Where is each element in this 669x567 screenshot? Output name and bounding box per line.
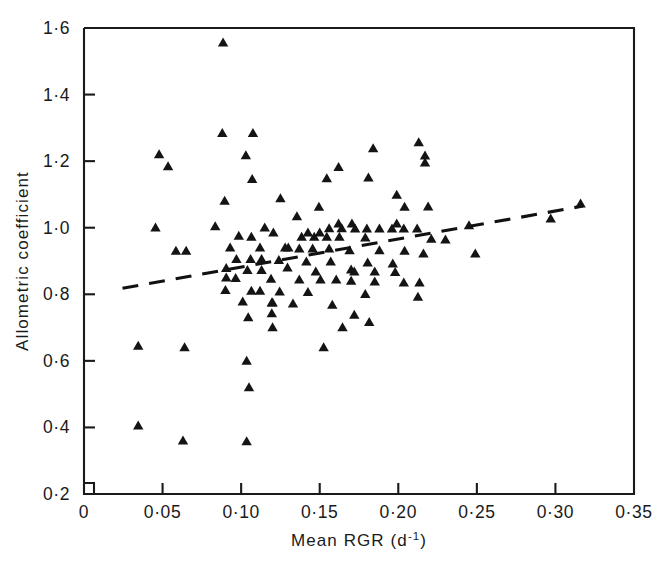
data-point xyxy=(399,202,409,211)
data-point xyxy=(255,242,265,251)
data-point xyxy=(360,289,370,298)
regression-line xyxy=(123,206,583,288)
x-tick-label: 0·10 xyxy=(222,502,259,522)
data-point xyxy=(315,274,325,283)
data-point xyxy=(318,342,328,351)
data-point xyxy=(241,436,251,445)
data-point xyxy=(255,286,265,295)
data-point xyxy=(181,246,191,255)
data-point xyxy=(171,246,181,255)
data-point xyxy=(546,214,556,223)
data-point xyxy=(150,222,160,231)
x-tick-label: 0·05 xyxy=(144,502,181,522)
origin-nub xyxy=(84,483,94,494)
x-tick-label: 0·15 xyxy=(301,502,338,522)
y-tick-label: 1·2 xyxy=(43,151,70,171)
data-point xyxy=(392,190,402,199)
data-point xyxy=(248,128,258,137)
data-point xyxy=(238,296,248,305)
data-point xyxy=(275,193,285,202)
data-point xyxy=(268,227,278,236)
data-point xyxy=(267,308,277,317)
y-tick-label: 1·6 xyxy=(43,18,70,38)
y-tick-label: 1·4 xyxy=(43,85,70,105)
data-point xyxy=(178,436,188,445)
data-point xyxy=(390,267,400,276)
data-point xyxy=(307,243,317,252)
data-point xyxy=(322,173,332,182)
y-tick-label: 1·0 xyxy=(43,218,70,238)
scatter-plot-figure: 00·050·100·150·200·250·300·35 0·20·40·60… xyxy=(0,0,669,567)
data-point xyxy=(225,242,235,251)
data-point xyxy=(267,297,277,306)
data-point xyxy=(267,322,277,331)
data-point xyxy=(256,265,266,274)
data-point xyxy=(440,234,450,243)
data-point xyxy=(337,322,347,331)
data-point xyxy=(244,382,254,391)
data-point xyxy=(294,274,304,283)
x-axis-title: Mean RGR (d-1) xyxy=(291,530,427,550)
y-axis-title: Allometric coefficient xyxy=(13,171,32,351)
data-point xyxy=(324,223,334,232)
data-point xyxy=(303,227,313,236)
data-point xyxy=(412,223,422,232)
data-point xyxy=(241,356,251,365)
data-point xyxy=(374,245,384,254)
data-point xyxy=(241,150,251,159)
data-point xyxy=(362,257,372,266)
x-tick-label: 0·25 xyxy=(458,502,495,522)
data-point xyxy=(246,286,256,295)
data-point xyxy=(399,277,409,286)
y-tick-label: 0·8 xyxy=(43,284,70,304)
data-point xyxy=(210,221,220,230)
data-point xyxy=(331,274,341,283)
data-point xyxy=(303,287,313,296)
data-point xyxy=(423,202,433,211)
data-point xyxy=(326,256,336,265)
x-tick-label: 0 xyxy=(79,502,89,522)
data-point xyxy=(154,149,164,158)
data-point xyxy=(324,243,334,252)
data-point xyxy=(288,298,298,307)
data-point xyxy=(274,286,284,295)
data-point xyxy=(364,317,374,326)
data-point xyxy=(470,248,480,257)
data-point xyxy=(163,161,173,170)
data-point xyxy=(217,128,227,137)
data-point xyxy=(333,162,343,171)
data-point xyxy=(246,232,256,241)
data-point xyxy=(179,342,189,351)
data-point xyxy=(414,137,424,146)
plot-svg: 00·050·100·150·200·250·300·35 0·20·40·60… xyxy=(0,0,669,567)
data-point xyxy=(370,276,380,285)
data-point xyxy=(346,276,356,285)
data-point xyxy=(349,310,359,319)
data-point xyxy=(314,202,324,211)
data-point xyxy=(294,243,304,252)
data-point xyxy=(221,272,231,281)
data-point xyxy=(292,211,302,220)
data-point xyxy=(363,173,373,182)
y-tick-label: 0·6 xyxy=(43,351,70,371)
y-tick-label: 0·2 xyxy=(43,484,70,504)
data-point xyxy=(243,312,253,321)
data-point xyxy=(368,143,378,152)
plot-frame xyxy=(84,28,634,494)
data-point xyxy=(311,266,321,275)
data-point xyxy=(420,151,430,160)
data-point xyxy=(399,246,409,255)
x-tick-label: 0·30 xyxy=(537,502,574,522)
data-point xyxy=(234,231,244,240)
data-point xyxy=(374,223,384,232)
data-point xyxy=(327,300,337,309)
x-tick-label: 0·20 xyxy=(380,502,417,522)
y-axis-ticks xyxy=(84,95,95,428)
data-point xyxy=(266,274,276,283)
data-point xyxy=(334,232,344,241)
x-tick-label: 0·35 xyxy=(615,502,652,522)
y-tick-label: 0·4 xyxy=(43,417,70,437)
data-point xyxy=(219,196,229,205)
data-point xyxy=(133,341,143,350)
axis-box xyxy=(84,28,634,494)
